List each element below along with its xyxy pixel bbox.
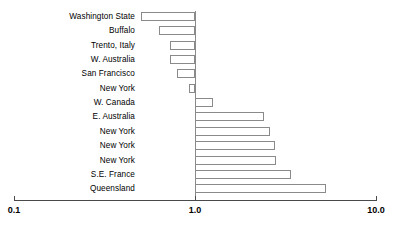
bar [195, 156, 276, 165]
bar-row-label: Queensland [5, 183, 135, 194]
bar-row-label: Washington State [5, 11, 135, 22]
bar-row: Washington State [0, 11, 403, 25]
bar [159, 26, 195, 35]
bar [195, 112, 264, 121]
bar [195, 184, 326, 193]
bar [195, 141, 275, 150]
x-axis-tick-label: 0.1 [8, 205, 21, 215]
x-axis-tick-label: 10.0 [367, 205, 385, 215]
bar-row-label: Buffalo [5, 25, 135, 36]
bar [189, 84, 195, 93]
x-axis-tick [376, 196, 377, 201]
bar-row: New York [0, 140, 403, 154]
bar-row: E. Australia [0, 111, 403, 125]
bar [141, 12, 195, 21]
bar-row: W. Canada [0, 97, 403, 111]
bar-row-label: San Francisco [5, 68, 135, 79]
bar-row: New York [0, 155, 403, 169]
bar-row: Trento, Italy [0, 40, 403, 54]
x-axis-tick [195, 196, 196, 201]
bar-row: New York [0, 83, 403, 97]
bar [195, 170, 291, 179]
bar-row: W. Australia [0, 54, 403, 68]
bar-row-label: S.E. France [5, 169, 135, 180]
bar [170, 55, 195, 64]
bar-row-label: W. Canada [5, 97, 135, 108]
bar-row-label: New York [5, 126, 135, 137]
bar-row-label: W. Australia [5, 54, 135, 65]
bar [170, 41, 195, 50]
bar-row: San Francisco [0, 68, 403, 82]
bar-row-label: New York [5, 140, 135, 151]
bar-row-label: Trento, Italy [5, 40, 135, 51]
bar [195, 98, 213, 107]
bar-row-label: New York [5, 155, 135, 166]
bar-row-label: New York [5, 83, 135, 94]
bar-row: Buffalo [0, 25, 403, 39]
bar-row: New York [0, 126, 403, 140]
bar [195, 127, 270, 136]
x-axis-tick-label: 1.0 [189, 205, 202, 215]
bar-row: S.E. France [0, 169, 403, 183]
bar-chart: Washington StateBuffaloTrento, ItalyW. A… [0, 0, 403, 229]
bar [177, 69, 195, 78]
x-axis-tick [14, 196, 15, 201]
bar-row-label: E. Australia [5, 111, 135, 122]
bar-row: Queensland [0, 183, 403, 197]
